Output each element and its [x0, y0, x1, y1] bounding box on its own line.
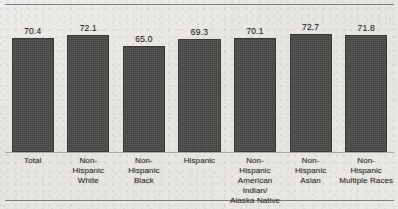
bar-column: 70.4	[12, 8, 54, 152]
category-label-line: American Indian/	[227, 176, 283, 196]
category-label: Non-HispanicBlack	[116, 156, 172, 186]
category-label: Total	[5, 156, 61, 166]
top-rule	[5, 4, 394, 5]
category-label: Hispanic	[172, 156, 228, 166]
bar	[12, 38, 54, 152]
bar-value-label: 71.8	[358, 23, 375, 33]
x-axis-line	[5, 152, 394, 153]
category-label-line: Non-	[283, 156, 339, 166]
plot-area: 70.472.165.069.370.172.771.8	[5, 8, 394, 152]
bar-value-label: 70.4	[24, 26, 41, 36]
category-label-line: Multiple Races	[338, 176, 394, 186]
category-label-line: Hispanic	[116, 166, 172, 176]
category-label-line: Black	[116, 176, 172, 186]
category-label: Non-HispanicWhite	[61, 156, 117, 186]
bar	[67, 35, 109, 152]
bar-column: 72.7	[290, 8, 332, 152]
bar	[178, 39, 220, 152]
category-axis-labels: TotalNon-HispanicWhiteNon-HispanicBlackH…	[5, 156, 394, 200]
bar-column: 69.3	[178, 8, 220, 152]
bar-column: 71.8	[345, 8, 387, 152]
bar-value-label: 65.0	[135, 34, 152, 44]
category-label: Non-HispanicAsian	[283, 156, 339, 186]
category-label: Non-HispanicMultiple Races	[338, 156, 394, 186]
category-label-line: Hispanic	[172, 156, 228, 166]
bar	[123, 46, 165, 152]
category-label-line: Hispanic	[283, 166, 339, 176]
category-label-line: Non-	[338, 156, 394, 166]
bar-value-label: 72.1	[80, 23, 97, 33]
category-label-line: Non-	[116, 156, 172, 166]
category-label-line: White	[61, 176, 117, 186]
bar	[345, 35, 387, 152]
bar	[234, 38, 276, 152]
bar-column: 65.0	[123, 8, 165, 152]
category-label-line: Non-	[61, 156, 117, 166]
bar-value-label: 72.7	[302, 22, 319, 32]
category-label-line: Hispanic	[61, 166, 117, 176]
bar-column: 72.1	[67, 8, 109, 152]
category-label-line: Alaska Native	[227, 196, 283, 206]
bar-column: 70.1	[234, 8, 276, 152]
category-label-line: Asian	[283, 176, 339, 186]
bar-value-label: 70.1	[246, 26, 263, 36]
bar-value-label: 69.3	[191, 27, 208, 37]
category-label-line: Hispanic	[338, 166, 394, 176]
category-label-line: Non-	[227, 156, 283, 166]
category-label-line: Total	[5, 156, 61, 166]
bar	[290, 34, 332, 152]
category-label: Non-HispanicAmerican Indian/Alaska Nativ…	[227, 156, 283, 206]
bottom-rule	[5, 200, 394, 201]
category-label-line: Hispanic	[227, 166, 283, 176]
bar-chart: 70.472.165.069.370.172.771.8 TotalNon-Hi…	[0, 0, 398, 209]
